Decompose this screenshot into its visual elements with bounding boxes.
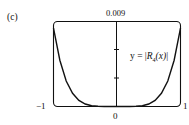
chart-plot	[0, 0, 189, 125]
